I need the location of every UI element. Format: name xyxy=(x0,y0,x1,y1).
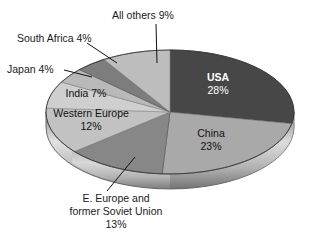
pie-chart-figure: All others 9% South Africa 4% Japan 4% E… xyxy=(0,0,316,240)
label-south-africa: South Africa 4% xyxy=(17,32,92,44)
pie-slice-usa[interactable] xyxy=(170,50,294,124)
label-all-others: All others 9% xyxy=(112,9,174,21)
label-china-value: 23% xyxy=(200,140,221,152)
label-e-europe-line3: 13% xyxy=(105,218,126,230)
label-usa-value: 28% xyxy=(207,84,228,96)
label-usa-name: USA xyxy=(207,71,230,83)
label-western-europe-name: Western Europe xyxy=(53,107,129,119)
label-japan: Japan 4% xyxy=(7,63,54,75)
label-e-europe-line2: former Soviet Union xyxy=(70,205,163,217)
pie-chart-svg: All others 9% South Africa 4% Japan 4% E… xyxy=(0,0,316,240)
label-china-name: China xyxy=(197,127,225,139)
label-india: India 7% xyxy=(66,87,107,99)
label-western-europe-value: 12% xyxy=(80,120,101,132)
label-e-europe-line1: E. Europe and xyxy=(82,192,149,204)
